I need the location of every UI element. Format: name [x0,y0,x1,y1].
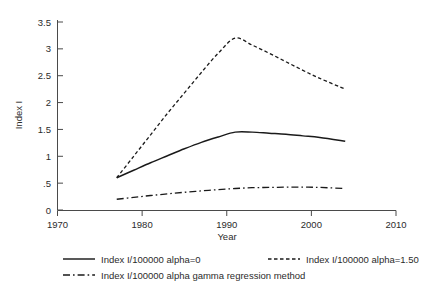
legend-label-1: Index I/100000 alpha=1.50 [306,254,419,265]
x-tick-label: 1990 [216,219,237,230]
y-tick-label: 3 [46,43,51,54]
y-tick-label: 0 [46,205,51,216]
series-line-1 [117,38,345,178]
y-axis-ticks: 0.511.522.533.5 [38,17,63,216]
x-tick-label: 1970 [47,219,68,230]
legend-label-0: Index I/100000 alpha=0 [101,254,201,265]
y-tick-label: .5 [43,178,51,189]
x-axis-title: Year [217,231,236,242]
chart-canvas: 0.511.522.533.5 19701980199020002010 Ind… [0,0,448,295]
y-tick-label: 1.5 [38,124,51,135]
y-axis-title: Index I [13,101,24,130]
data-series-group [117,38,345,199]
y-tick-label: 2.5 [38,70,51,81]
series-line-2 [117,187,345,199]
legend-label-2: Index I/100000 alpha gamma regression me… [101,270,305,281]
chart-figure: 0.511.522.533.5 19701980199020002010 Ind… [0,0,448,295]
x-tick-label: 2000 [301,219,322,230]
chart-legend: Index I/100000 alpha=0Index I/100000 alp… [63,254,419,281]
y-tick-label: 1 [46,151,51,162]
y-tick-label: 2 [46,97,51,108]
series-line-0 [117,132,345,178]
y-tick-label: 3.5 [38,17,51,28]
x-tick-label: 1980 [132,219,153,230]
x-tick-label: 2010 [385,219,406,230]
x-axis-ticks: 19701980199020002010 [47,211,407,231]
